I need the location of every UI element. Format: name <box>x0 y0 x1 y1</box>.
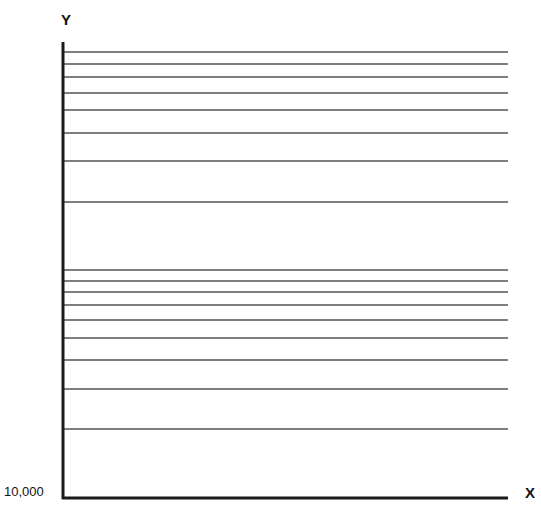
y-origin-tick-label: 10,000 <box>4 484 44 499</box>
semilog-chart <box>0 0 541 524</box>
gridlines <box>64 52 508 429</box>
y-axis-label: Y <box>61 11 71 28</box>
x-axis-label: X <box>525 484 535 501</box>
